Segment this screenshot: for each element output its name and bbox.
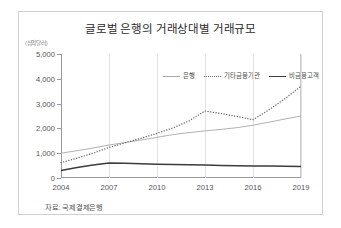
y-tick-mark xyxy=(57,178,61,179)
series-lines xyxy=(61,54,301,178)
y-tick-label: 3,000 xyxy=(36,99,55,108)
x-tick-label: 2007 xyxy=(101,183,118,192)
series-line xyxy=(61,86,301,162)
chart-title: 글로벌 은행의 거래상대별 거래규모 xyxy=(19,20,322,36)
y-axis-unit-label: (십억달러) xyxy=(25,39,48,47)
y-tick-label: 0 xyxy=(51,174,55,183)
source-note: 자료: 국제결제은행 xyxy=(45,202,103,212)
figure-container: 글로벌 은행의 거래상대별 거래규모 (십억달러) 은행기타금융기관비금융고객 … xyxy=(18,11,323,215)
y-tick-label: 5,000 xyxy=(36,50,55,59)
series-line xyxy=(61,163,301,170)
x-tick-label: 2010 xyxy=(149,183,166,192)
series-line xyxy=(61,116,301,153)
x-tick-label: 2004 xyxy=(53,183,70,192)
y-tick-label: 2,000 xyxy=(36,124,55,133)
x-tick-label: 2019 xyxy=(293,183,310,192)
x-tick-label: 2016 xyxy=(245,183,262,192)
plot-area: 01,0002,0003,0004,0005,000 2004200720102… xyxy=(61,54,301,178)
y-tick-label: 1,000 xyxy=(36,149,55,158)
gridline-vertical xyxy=(301,54,302,178)
x-tick-label: 2013 xyxy=(197,183,214,192)
y-tick-label: 4,000 xyxy=(36,74,55,83)
